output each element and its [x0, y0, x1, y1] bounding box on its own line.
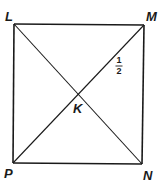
- rectangle-diagram: L M N P K 1 2: [0, 0, 164, 185]
- fraction-denominator: 2: [117, 66, 122, 76]
- fraction-numerator: 1: [117, 55, 122, 65]
- vertex-label-M: M: [146, 9, 158, 24]
- side-NP: [13, 163, 142, 164]
- side-PL: [13, 24, 14, 163]
- intersection-label-K: K: [73, 101, 84, 116]
- side-MN: [142, 25, 144, 164]
- vertex-label-P: P: [4, 166, 13, 181]
- vertex-label-L: L: [5, 9, 13, 24]
- vertex-label-N: N: [143, 168, 153, 183]
- side-LM: [14, 24, 144, 25]
- angle-mark-half: 1 2: [116, 55, 123, 76]
- diagonal-MP: [13, 25, 144, 163]
